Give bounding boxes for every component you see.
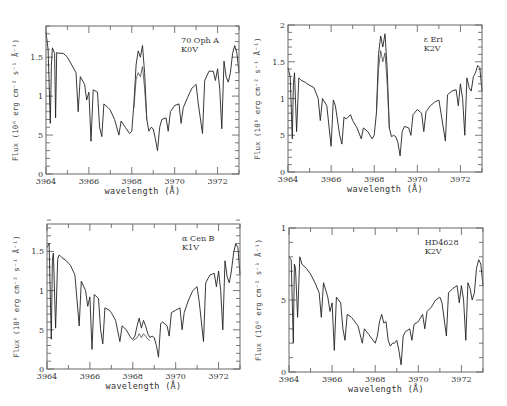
- x-tick-label: 3968: [365, 375, 385, 384]
- y-tick-label: 1: [281, 224, 286, 233]
- x-tick-label: 3972: [451, 375, 471, 384]
- y-axis-label: Flux (10⁶ erg cm⁻² s⁻¹ Å⁻¹): [254, 239, 263, 361]
- plot-frame: [289, 228, 483, 372]
- y-tick-label: 0: [281, 368, 286, 377]
- spectrum-plot: 39643966396839703972051 HD4628 K2V wavel…: [0, 0, 507, 406]
- star-name: HD4628: [425, 238, 459, 247]
- x-tick-label: 3970: [408, 375, 428, 384]
- x-tick-label: 3966: [322, 375, 342, 384]
- y-tick-label: 5: [281, 296, 286, 305]
- x-axis-label: wavelength (Å): [348, 383, 424, 394]
- spectral-type: K2V: [425, 247, 442, 256]
- spectrum-line: [289, 257, 483, 365]
